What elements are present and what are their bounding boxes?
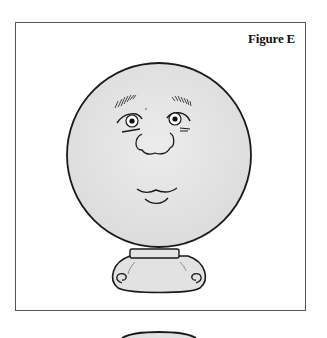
ball (67, 63, 251, 247)
pedestal (113, 256, 206, 293)
face-ball-illustration (0, 0, 327, 338)
neck-band (130, 249, 179, 258)
forehead-dot (145, 108, 147, 110)
next-figure-ball-top (122, 332, 196, 338)
